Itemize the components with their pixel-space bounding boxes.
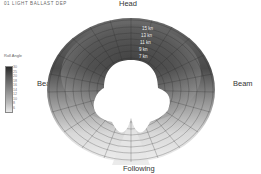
ring-label: 11 kn <box>140 40 151 45</box>
ring-label: 9 kn <box>139 47 148 52</box>
polar-plot: 7 kn 9 kn 11 kn 13 kn 15 kn <box>0 0 261 174</box>
ring-label: 13 kn <box>141 33 153 38</box>
ring-label: 15 kn <box>142 26 154 31</box>
polar-surface <box>47 18 215 165</box>
ring-label: 7 kn <box>139 54 148 59</box>
